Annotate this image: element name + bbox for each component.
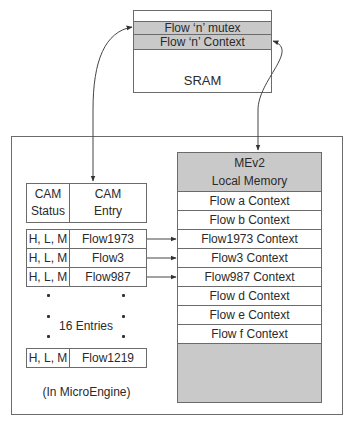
sram-context-to-local-memory-arrow <box>258 41 282 150</box>
sram-mutex-to-cam-arrow <box>93 27 132 181</box>
connector-layer <box>0 0 356 422</box>
